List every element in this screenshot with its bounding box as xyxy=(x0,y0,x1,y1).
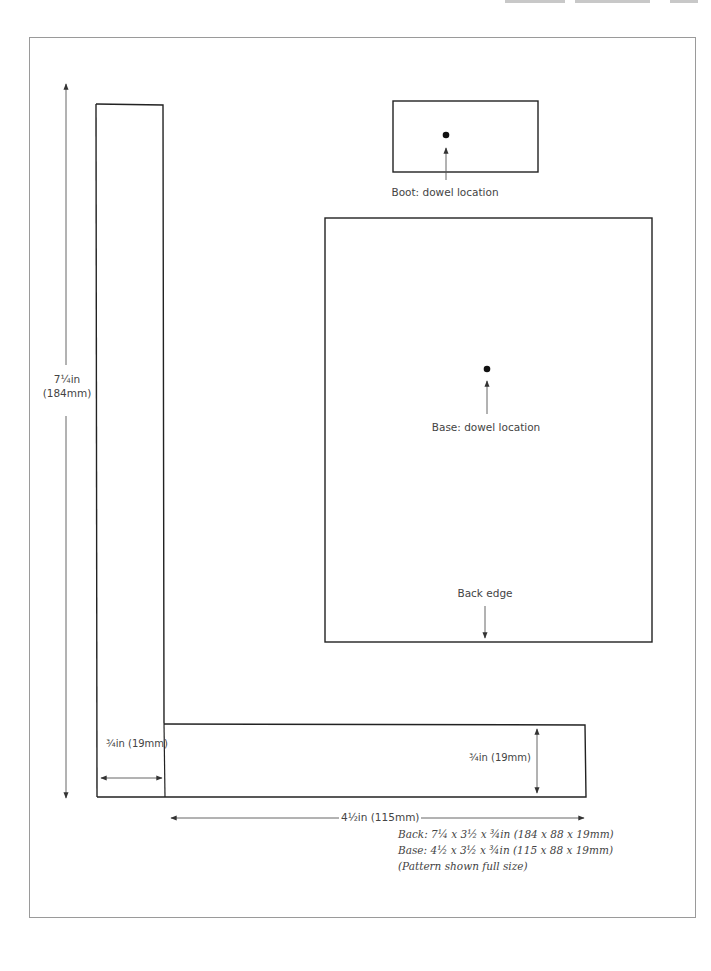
caption-back-dimensions: Back: 7¼ x 3½ x ¾in (184 x 88 x 19mm) xyxy=(398,826,614,842)
back-height-in: 7¼in xyxy=(43,372,92,386)
base-thickness-label: ¾in (19mm) xyxy=(469,752,531,763)
boot-piece-outline xyxy=(393,101,538,172)
back-thickness-label: ¾in (19mm) xyxy=(106,738,168,749)
base-length-label: 4½in (115mm) xyxy=(339,811,421,823)
caption-note: (Pattern shown full size) xyxy=(398,858,614,874)
base-dowel-label: Base: dowel location xyxy=(432,421,541,433)
back-edge-label: Back edge xyxy=(457,587,512,599)
boot-dowel-dot xyxy=(443,132,450,139)
caption-base-dimensions: Base: 4½ x 3½ x ¾in (115 x 88 x 19mm) xyxy=(398,842,614,858)
base-dowel-dot xyxy=(484,366,491,373)
back-height-mm: (184mm) xyxy=(43,386,92,400)
boot-dowel-label: Boot: dowel location xyxy=(391,186,498,198)
pattern-caption: Back: 7¼ x 3½ x ¾in (184 x 88 x 19mm) Ba… xyxy=(398,826,614,874)
back-piece-outline xyxy=(96,104,164,797)
back-height-label: 7¼in (184mm) xyxy=(43,372,92,400)
